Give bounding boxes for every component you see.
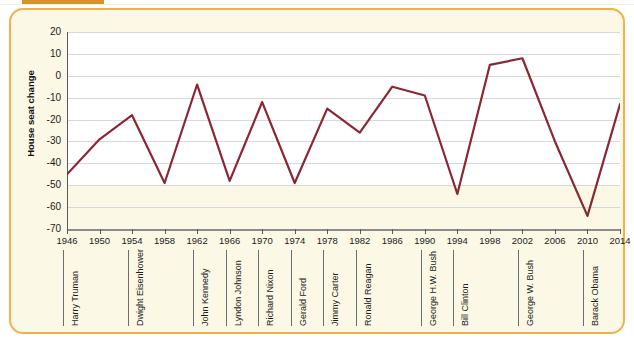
president-tick bbox=[323, 250, 324, 326]
y-tick-label: 0 bbox=[21, 70, 61, 81]
chart-panel: 20100-10-20-30-40-50-60-70 House seat ch… bbox=[9, 8, 625, 334]
y-tick-label: -30 bbox=[21, 135, 61, 146]
y-tick-label: -10 bbox=[21, 92, 61, 103]
president-label: Ronald Reagan bbox=[363, 263, 373, 326]
president-tick bbox=[226, 250, 227, 326]
x-tick-mark bbox=[262, 229, 263, 234]
data-line-series bbox=[67, 32, 620, 229]
y-tick-label: 20 bbox=[21, 26, 61, 37]
x-tick-mark bbox=[67, 229, 68, 234]
x-tick-mark bbox=[230, 229, 231, 234]
y-tick-label: -40 bbox=[21, 157, 61, 168]
x-tick-mark bbox=[620, 229, 621, 234]
president-tick bbox=[291, 250, 292, 326]
y-tick-label: -60 bbox=[21, 201, 61, 212]
president-tick bbox=[421, 250, 422, 326]
president-label: George W. Bush bbox=[525, 260, 535, 326]
chart-screenshot: 20100-10-20-30-40-50-60-70 House seat ch… bbox=[0, 0, 634, 342]
x-tick-mark bbox=[360, 229, 361, 234]
president-label: Lyndon Johnson bbox=[233, 260, 243, 326]
x-tick-mark bbox=[295, 229, 296, 234]
president-label: Bill Clinton bbox=[460, 283, 470, 326]
president-label: Harry Truman bbox=[70, 271, 80, 326]
president-tick bbox=[63, 250, 64, 326]
president-label: George H.W. Bush bbox=[428, 251, 438, 326]
x-tick-mark bbox=[490, 229, 491, 234]
x-tick-mark bbox=[100, 229, 101, 234]
president-tick bbox=[193, 250, 194, 326]
x-tick-mark bbox=[197, 229, 198, 234]
series-polyline bbox=[67, 58, 620, 216]
x-axis-line bbox=[67, 229, 620, 231]
x-tick-mark bbox=[522, 229, 523, 234]
president-label: Richard Nixon bbox=[265, 269, 275, 326]
president-tick bbox=[258, 250, 259, 326]
y-tick-label: -20 bbox=[21, 114, 61, 125]
x-tick-mark bbox=[555, 229, 556, 234]
y-tick-label: 10 bbox=[21, 48, 61, 59]
president-label: Gerald Ford bbox=[298, 278, 308, 326]
y-tick-label: -50 bbox=[21, 179, 61, 190]
president-label: Dwight Eisenhower bbox=[135, 249, 145, 326]
x-tick-label: 2014 bbox=[598, 235, 634, 246]
president-tick bbox=[518, 250, 519, 326]
x-tick-mark bbox=[165, 229, 166, 234]
president-label: John Kennedy bbox=[200, 268, 210, 326]
president-label: Jimmy Carter bbox=[330, 273, 340, 327]
y-axis-tick-labels: 20100-10-20-30-40-50-60-70 bbox=[21, 32, 65, 229]
president-tick bbox=[453, 250, 454, 326]
x-tick-mark bbox=[327, 229, 328, 234]
x-tick-mark bbox=[392, 229, 393, 234]
x-tick-mark bbox=[132, 229, 133, 234]
president-label: Barack Obama bbox=[590, 266, 600, 326]
president-tick bbox=[128, 250, 129, 326]
y-tick-label: -70 bbox=[21, 223, 61, 234]
x-tick-mark bbox=[587, 229, 588, 234]
x-tick-mark bbox=[425, 229, 426, 234]
president-tick bbox=[583, 250, 584, 326]
president-tick bbox=[356, 250, 357, 326]
x-tick-mark bbox=[457, 229, 458, 234]
header-divider bbox=[0, 4, 634, 5]
